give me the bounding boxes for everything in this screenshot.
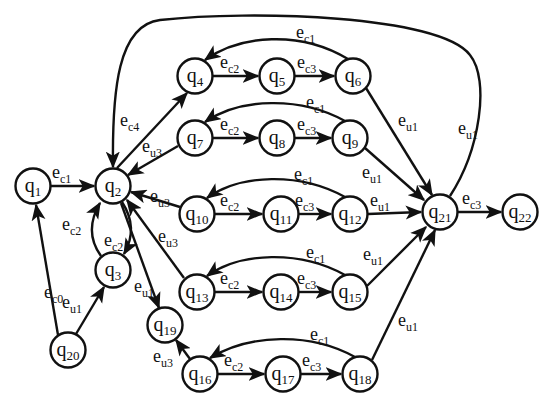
- state-node-q19: q19: [148, 308, 183, 343]
- state-node-q9: q9: [333, 121, 368, 156]
- state-node-q20: q20: [51, 333, 86, 368]
- edge-label-q6-to-q21: eu1: [398, 110, 418, 134]
- edge-label-q5-to-q6: ec3: [297, 52, 316, 76]
- edge-label-q21-to-q2: eu1: [458, 118, 478, 142]
- state-node-q11: q11: [264, 197, 299, 232]
- edge-q3-to-q2: [92, 203, 101, 256]
- state-node-q5: q5: [260, 59, 295, 94]
- state-node-q13: q13: [180, 275, 215, 310]
- edge-label-q9-to-q7: ec1: [306, 92, 325, 116]
- state-node-q3: q3: [96, 253, 131, 288]
- edge-label-q12-to-q10: ec1: [294, 164, 313, 188]
- edge-label-q1-to-q2: ec1: [52, 162, 71, 186]
- edge-label-q2-to-q4: ec4: [120, 110, 139, 134]
- state-node-q4: q4: [178, 59, 213, 94]
- state-node-q22: q22: [503, 195, 538, 230]
- edge-q12-to-q21: [368, 212, 421, 214]
- edge-label-q2-to-q3: ec2: [104, 230, 123, 254]
- edge-label-q2-to-q19: eu1: [134, 276, 154, 300]
- state-node-q15: q15: [333, 275, 368, 310]
- state-node-q14: q14: [264, 275, 299, 310]
- edge-label-q15-to-q21: eu1: [363, 244, 383, 268]
- state-node-q17: q17: [266, 357, 301, 392]
- edge-label-q20-to-q1: ec0: [44, 282, 63, 306]
- edge-label-q18-to-q16: ec1: [310, 324, 329, 348]
- edge-label-q3-to-q2: ec2: [62, 214, 81, 238]
- edge-label-q12-to-q21: eu1: [370, 190, 390, 214]
- edge-label-q20-to-q3: eu1: [62, 292, 82, 316]
- state-node-q2: q2: [96, 169, 131, 204]
- edge-label-q17-to-q18: ec3: [302, 350, 321, 374]
- state-node-q10: q10: [180, 197, 215, 232]
- edge-label-q16-to-q17: ec2: [224, 350, 243, 374]
- edge-label-q10-to-q11: ec2: [220, 190, 239, 214]
- edge-q20-to-q1: [36, 205, 58, 335]
- node-layer: q1q2q3q4q5q6q7q8q9q10q11q12q13q14q15q16q…: [16, 59, 538, 392]
- edge-label-q10-to-q2: eu3: [150, 186, 170, 210]
- edge-label-q21-to-q22: ec3: [462, 188, 481, 212]
- state-node-q6: q6: [336, 59, 371, 94]
- edge-label-q7-to-q2: eu3: [142, 136, 162, 160]
- edge-label-q4-to-q5: ec2: [220, 52, 239, 76]
- edge-label-q16-to-q19: eu3: [153, 346, 173, 370]
- state-diagram: ec1ec2ec2ec0eu1ec4eu3eu3eu3eu1eu3ec2ec3e…: [0, 0, 552, 405]
- state-node-q16: q16: [183, 357, 218, 392]
- edge-label-q14-to-q15: ec3: [297, 268, 316, 292]
- state-node-q18: q18: [343, 357, 378, 392]
- edge-label-q9-to-q21: eu1: [362, 162, 382, 186]
- edge-label-q18-to-q21: eu1: [398, 310, 418, 334]
- edge-label-q13-to-q14: ec2: [220, 268, 239, 292]
- state-node-q1: q1: [16, 169, 51, 204]
- edge-label-q15-to-q13: ec1: [306, 242, 325, 266]
- edge-q16-to-q19: [176, 340, 190, 359]
- edge-label-q8-to-q9: ec3: [297, 114, 316, 138]
- state-node-q8: q8: [260, 121, 295, 156]
- edge-label-q6-to-q4: ec1: [296, 22, 315, 46]
- state-node-q21: q21: [423, 195, 458, 230]
- edge-label-q7-to-q8: ec2: [220, 114, 239, 138]
- state-node-q7: q7: [178, 121, 213, 156]
- state-node-q12: q12: [333, 197, 368, 232]
